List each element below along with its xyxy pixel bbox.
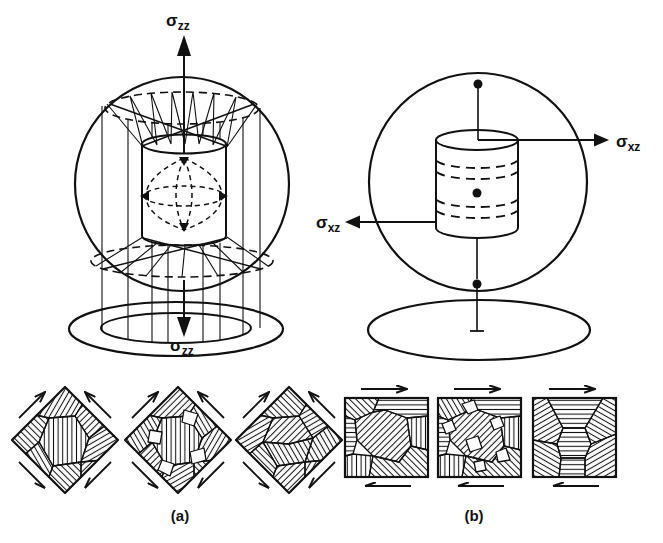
- grain-panel-a1: [7, 382, 123, 498]
- bottom-dot: [473, 280, 482, 289]
- grain-panel-b2: [438, 389, 521, 486]
- grains: [7, 382, 123, 498]
- grains: [231, 382, 347, 498]
- sigma-xz-left-arrow: [345, 216, 436, 229]
- grain-panel-b1: [345, 389, 428, 486]
- base-ellipse: [368, 300, 590, 360]
- deformation-figure-root: σzz σzz σxz σ: [0, 0, 663, 543]
- grains: [438, 398, 521, 477]
- grains: [120, 382, 236, 498]
- center-dot: [473, 189, 482, 198]
- grain-panel-b3: [533, 389, 616, 486]
- sigma-zz-up-arrow: [177, 35, 191, 154]
- sigma-zz-top-label: σzz: [166, 11, 190, 33]
- grain-panel-a2: [120, 382, 236, 498]
- grain-panel-a3: [231, 382, 347, 498]
- sigma-zz-bottom-label: σzz: [170, 336, 194, 358]
- core-down-arrow-top: [179, 157, 189, 166]
- caption-a: (a): [171, 507, 189, 524]
- core-flow-arrows: [140, 157, 228, 232]
- sigma-zz-down-arrow: [177, 280, 191, 337]
- fan-lines: [96, 237, 268, 277]
- grains: [533, 398, 616, 477]
- caption-b: (b): [464, 507, 483, 524]
- deforming-core-dashed: [144, 158, 224, 230]
- inner-cylinder: [436, 130, 518, 238]
- sigma-xz-right-arrow: [478, 134, 609, 147]
- grain-evolution-row: [7, 382, 616, 498]
- grains: [345, 398, 428, 477]
- pole-dot-top: [474, 80, 483, 89]
- sigma-xz-right-label: σxz: [616, 132, 640, 154]
- core-down-arrow-bottom: [179, 223, 189, 232]
- sigma-xz-left-label: σxz: [316, 213, 340, 235]
- panel-b-shear-diagram: σxz σxz: [316, 73, 640, 360]
- figure-canvas: σzz σzz σxz σ: [0, 0, 663, 543]
- panel-a-compression-diagram: σzz σzz: [69, 11, 289, 358]
